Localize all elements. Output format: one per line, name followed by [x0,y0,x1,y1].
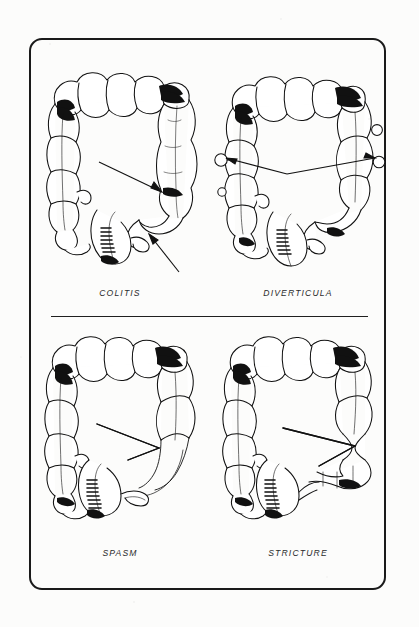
arrow-to-colitis-sigmoid [149,234,179,272]
colon-illustration-colitis [31,42,209,274]
colon-illustration-stricture [209,320,387,535]
arrow-to-spasm-segment [97,424,159,460]
figure-page: COLITIS [0,0,419,627]
panel-caption-colitis: COLITIS [31,288,209,298]
panel-caption-diverticula: DIVERTICULA [209,288,387,298]
row-divider [51,316,368,317]
panel-spasm: SPASM [31,320,209,588]
diverticulum-pouch-right-1 [372,125,383,136]
panel-caption-spasm: SPASM [31,548,209,558]
colon-illustration-diverticula [209,42,387,274]
panel-stricture: STRICTURE [209,320,387,588]
colon-illustration-spasm [31,320,209,535]
arrow-to-colitis-descending [99,162,162,192]
diverticulum-pouch-left-2 [218,188,226,196]
panel-diverticula: DIVERTICULA [209,42,387,314]
panel-colitis: COLITIS [31,42,209,314]
arrow-to-diverticulum-right [287,153,375,174]
panel-caption-stricture: STRICTURE [209,548,387,558]
